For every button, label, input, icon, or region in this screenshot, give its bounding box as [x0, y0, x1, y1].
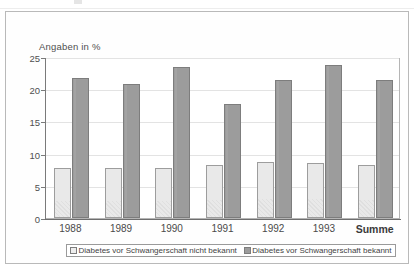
legend-label-2: Diabetes vor Schwangerschaft bekannt	[252, 246, 391, 255]
x-axis-label-1989: 1989	[110, 223, 132, 234]
y-axis-tick-label: 5	[6, 181, 40, 192]
y-axis-tick-label: 20	[6, 85, 40, 96]
bar-diabetes-vor-schwangerschaft-nicht-bekannt-1992	[257, 162, 274, 218]
y-axis-tick-label: 0	[6, 214, 40, 225]
bar-diabetes-vor-schwangerschaft-bekannt-1992	[275, 80, 292, 218]
legend-entry-2: Diabetes vor Schwangerschaft bekannt	[244, 246, 392, 255]
chart-legend: Diabetes vor Schwangerschaft nicht bekan…	[66, 244, 396, 257]
x-axis-label-1993: 1993	[313, 223, 335, 234]
x-axis-label-Summe: Summe	[356, 223, 394, 235]
gridline	[46, 155, 399, 156]
axis-unit-label: Angaben in %	[39, 41, 101, 52]
chart-frame: Angaben in % 0510152025 1988198919901991…	[5, 11, 409, 264]
gridline	[46, 90, 399, 91]
legend-swatch-icon-2	[244, 247, 251, 254]
x-axis-label-1990: 1990	[161, 223, 183, 234]
y-axis-tick-label: 25	[6, 53, 40, 64]
x-axis-label-1992: 1992	[262, 223, 284, 234]
x-axis-label-1988: 1988	[59, 223, 81, 234]
bar-diabetes-vor-schwangerschaft-nicht-bekannt-1993	[307, 163, 324, 218]
legend-swatch-icon-1	[70, 247, 77, 254]
bar-diabetes-vor-schwangerschaft-nicht-bekannt-Summe	[358, 165, 375, 218]
bar-diabetes-vor-schwangerschaft-bekannt-Summe	[376, 80, 393, 218]
y-axis-tick-labels: 0510152025	[6, 12, 40, 272]
gridline	[46, 58, 399, 59]
bar-diabetes-vor-schwangerschaft-bekannt-1991	[224, 104, 241, 218]
bar-diabetes-vor-schwangerschaft-bekannt-1990	[173, 67, 190, 218]
x-axis-label-1991: 1991	[211, 223, 233, 234]
bar-diabetes-vor-schwangerschaft-nicht-bekannt-1990	[155, 168, 172, 218]
legend-entry-1: Diabetes vor Schwangerschaft nicht bekan…	[70, 246, 237, 255]
bar-diabetes-vor-schwangerschaft-nicht-bekannt-1989	[105, 168, 122, 218]
x-axis-line	[45, 219, 401, 220]
y-axis-line	[45, 58, 46, 220]
gridline	[46, 122, 399, 123]
bar-diabetes-vor-schwangerschaft-bekannt-1989	[123, 84, 140, 218]
y-axis-tick-label: 15	[6, 117, 40, 128]
scan-artifact-mark	[74, 0, 82, 4]
plot-area	[45, 58, 400, 219]
bar-diabetes-vor-schwangerschaft-bekannt-1988	[72, 78, 89, 218]
legend-label-1: Diabetes vor Schwangerschaft nicht bekan…	[79, 246, 237, 255]
bar-diabetes-vor-schwangerschaft-bekannt-1993	[325, 65, 342, 218]
bar-diabetes-vor-schwangerschaft-nicht-bekannt-1991	[206, 165, 223, 218]
bar-diabetes-vor-schwangerschaft-nicht-bekannt-1988	[54, 168, 71, 218]
y-axis-tick-label: 10	[6, 149, 40, 160]
scan-artifact-line	[0, 8, 414, 9]
